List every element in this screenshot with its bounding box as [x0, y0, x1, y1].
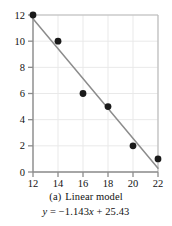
- data-point: [55, 38, 62, 45]
- y-tick-label: 10: [15, 36, 26, 47]
- figure-caption-title: (a)Linear model: [0, 191, 172, 202]
- data-point: [130, 142, 137, 149]
- x-tick-label: 12: [28, 178, 39, 189]
- x-axis-tick-labels: 12 14 16 18 20 22: [28, 178, 164, 189]
- figure-label-tag: (a): [49, 191, 61, 202]
- y-tick-label: 12: [15, 10, 26, 21]
- data-point: [30, 12, 37, 19]
- data-point: [105, 103, 112, 110]
- y-axis-ticks: [28, 15, 33, 172]
- figure-linear-model: 0 2 4 6 8 10 12 12 14 16 18 20 22: [0, 0, 172, 226]
- y-tick-label: 8: [20, 62, 25, 73]
- equation-coefficient: = −1.143: [47, 206, 89, 217]
- equation-constant: + 25.43: [94, 206, 130, 217]
- data-point: [80, 90, 87, 97]
- figure-caption-equation: y = −1.143x + 25.43: [0, 206, 172, 217]
- y-tick-label: 4: [20, 114, 26, 125]
- x-axis-ticks: [33, 172, 158, 177]
- x-tick-label: 18: [103, 178, 114, 189]
- y-tick-label: 0: [20, 167, 25, 178]
- data-point: [155, 156, 162, 163]
- y-axis-tick-labels: 0 2 4 6 8 10 12: [15, 10, 26, 178]
- x-tick-label: 16: [78, 178, 89, 189]
- x-tick-label: 20: [128, 178, 139, 189]
- y-tick-label: 6: [20, 88, 25, 99]
- figure-caption-text: Linear model: [65, 191, 122, 202]
- y-tick-label: 2: [20, 140, 25, 151]
- x-tick-label: 22: [153, 178, 164, 189]
- x-tick-label: 14: [53, 178, 64, 189]
